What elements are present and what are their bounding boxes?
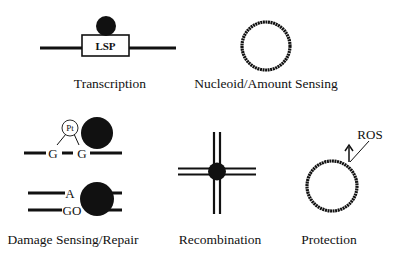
- recombination-panel: Recombination: [178, 132, 261, 247]
- circular-mtdna: [242, 22, 290, 70]
- protection-panel: ROS Protection: [301, 127, 382, 247]
- recombination-label: Recombination: [179, 232, 262, 247]
- base-g1: G: [48, 146, 57, 161]
- base-a: A: [65, 186, 75, 201]
- ros-label: ROS: [357, 127, 382, 142]
- junction-protein: [208, 163, 226, 181]
- protection-label: Protection: [301, 232, 357, 247]
- circular-mtdna: [307, 161, 357, 211]
- transcription-panel: LSP Transcription: [40, 16, 176, 91]
- damage-panel: G G Pt A GO Damage Sensing/Repair: [8, 117, 139, 247]
- nucleoid-label: Nucleoid/Amount Sensing: [194, 76, 338, 91]
- protein-blob: [96, 16, 116, 36]
- protein-blob: [80, 182, 114, 216]
- pt-bond-right: [74, 134, 79, 145]
- damage-label: Damage Sensing/Repair: [8, 232, 139, 247]
- base-go: GO: [63, 203, 82, 218]
- lsp-label: LSP: [95, 40, 115, 52]
- tfam-functions-diagram: LSP Transcription Nucleoid/Amount Sensin…: [0, 0, 402, 258]
- nucleoid-panel: Nucleoid/Amount Sensing: [194, 22, 338, 91]
- pt-bond-left: [57, 134, 66, 145]
- protein-blob: [81, 117, 113, 149]
- base-g2: G: [77, 146, 86, 161]
- transcription-label: Transcription: [74, 76, 147, 91]
- pt-label: Pt: [66, 123, 74, 133]
- ros-pointer-line: [350, 141, 369, 162]
